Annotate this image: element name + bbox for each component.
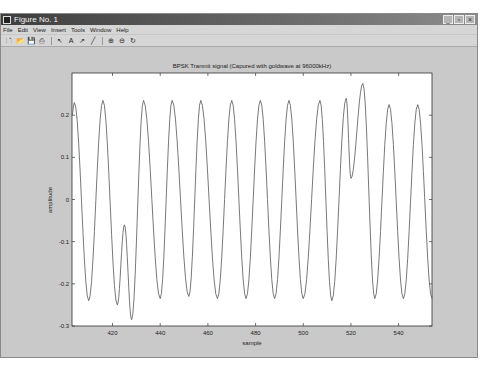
x-tick-label: 420 [108,330,119,336]
chart-title: BPSK Tranmit signal (Capured with goldwa… [173,63,331,69]
x-tick-label: 480 [251,330,262,336]
x-tick-label: 440 [155,330,166,336]
x-axis-label: sample [242,340,262,346]
y-axis-label: amplitude [47,186,53,213]
x-tick-label: 540 [394,330,405,336]
x-tick-label: 500 [298,330,309,336]
plot-area: BPSK Tranmit signal (Capured with goldwa… [0,0,488,371]
x-tick-label: 520 [346,330,357,336]
y-tick-label: 0.1 [61,154,70,160]
y-tick-label: 0.2 [61,112,70,118]
axes-box [72,73,432,326]
y-tick-label: -0.2 [59,281,70,287]
y-tick-label: -0.3 [59,323,70,329]
x-tick-label: 460 [203,330,214,336]
y-tick-label: 0 [66,197,70,203]
y-tick-label: -0.1 [59,239,70,245]
